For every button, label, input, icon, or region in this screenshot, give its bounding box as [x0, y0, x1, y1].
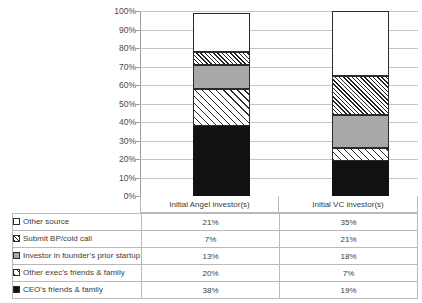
bar-segment	[332, 161, 389, 196]
table-value-cell: 21%	[280, 231, 418, 248]
table-row: Submit BP/cold call7%21%	[13, 231, 418, 248]
bar-segment	[193, 52, 250, 65]
y-axis-tickmark	[136, 122, 140, 123]
y-axis-tick-label: 70%	[100, 63, 136, 72]
y-axis-tickmark	[136, 141, 140, 142]
table-value-cell: 21%	[142, 214, 280, 231]
solid-black-square-icon	[13, 286, 20, 293]
y-axis-tick-label: 20%	[100, 155, 136, 164]
legend-entry: Other source	[13, 214, 142, 231]
open-square-white-icon	[13, 218, 20, 225]
y-axis-tickmark	[136, 85, 140, 86]
category-label: Initial Angel investor(s)	[140, 196, 279, 213]
bar-segment	[332, 115, 389, 148]
legend-label: Investor in founder’s prior startup	[23, 252, 140, 261]
plot-area	[140, 11, 418, 196]
table-value-cell: 7%	[280, 265, 418, 282]
bar-column	[332, 11, 389, 196]
y-axis: 100%90%80%70%60%50%40%30%20%10%0%	[100, 11, 136, 196]
legend-entry: Investor in founder’s prior startup	[13, 248, 142, 265]
legend-entry: Other exec’s friends & family	[13, 265, 142, 282]
stacked-bar-chart-figure: 100%90%80%70%60%50%40%30%20%10%0% Initia…	[0, 0, 422, 303]
legend-label: Other source	[23, 218, 69, 227]
table-row: Investor in founder’s prior startup13%18…	[13, 248, 418, 265]
data-table: Other source21%35%Submit BP/cold call7%2…	[12, 213, 418, 299]
bar-column	[193, 11, 250, 196]
bar-segment	[193, 65, 250, 89]
table-value-cell: 19%	[280, 282, 418, 299]
bar-segment	[332, 11, 389, 76]
solid-gray-square-icon	[13, 252, 20, 259]
y-axis-tickmark	[136, 48, 140, 49]
table-row: Other exec’s friends & family20%7%	[13, 265, 418, 282]
bar-segment	[193, 13, 250, 52]
y-axis-tick-label: 30%	[100, 137, 136, 146]
table-value-cell: 13%	[142, 248, 280, 265]
table-value-cell: 18%	[280, 248, 418, 265]
y-axis-tick-label: 0%	[100, 192, 136, 201]
y-axis-tickmark	[136, 67, 140, 68]
table-value-cell: 7%	[142, 231, 280, 248]
y-axis-tickmark	[136, 159, 140, 160]
y-axis-tick-label: 40%	[100, 118, 136, 127]
table-row: Other source21%35%	[13, 214, 418, 231]
bar-segment	[193, 126, 250, 196]
table-value-cell: 35%	[280, 214, 418, 231]
wide-diagonal-hatch-icon	[13, 269, 20, 276]
category-label: Initial VC investor(s)	[279, 196, 418, 213]
y-axis-tick-label: 60%	[100, 81, 136, 90]
legend-entry: Submit BP/cold call	[13, 231, 142, 248]
bar-segment	[332, 76, 389, 115]
legend-entry: CEO’s friends & family	[13, 282, 142, 299]
table-value-cell: 38%	[142, 282, 280, 299]
table-row: CEO’s friends & family38%19%	[13, 282, 418, 299]
y-axis-tick-label: 10%	[100, 174, 136, 183]
legend-label: CEO’s friends & family	[23, 286, 103, 295]
y-axis-tickmark	[136, 178, 140, 179]
table-body: Other source21%35%Submit BP/cold call7%2…	[13, 214, 418, 299]
y-axis-tick-label: 90%	[100, 26, 136, 35]
dense-diagonal-hatch-icon	[13, 235, 20, 242]
y-axis-tick-label: 80%	[100, 44, 136, 53]
table-value-cell: 20%	[142, 265, 280, 282]
category-axis: Initial Angel investor(s)Initial VC inve…	[140, 196, 418, 213]
bar-segment	[193, 89, 250, 126]
y-axis-tickmark	[136, 11, 140, 12]
legend-label: Other exec’s friends & family	[23, 269, 125, 278]
y-axis-tickmark	[136, 30, 140, 31]
bar-segment	[332, 148, 389, 161]
y-axis-tickmark	[136, 104, 140, 105]
y-axis-tick-label: 100%	[100, 7, 136, 16]
legend-label: Submit BP/cold call	[23, 235, 92, 244]
y-axis-tick-label: 50%	[100, 100, 136, 109]
